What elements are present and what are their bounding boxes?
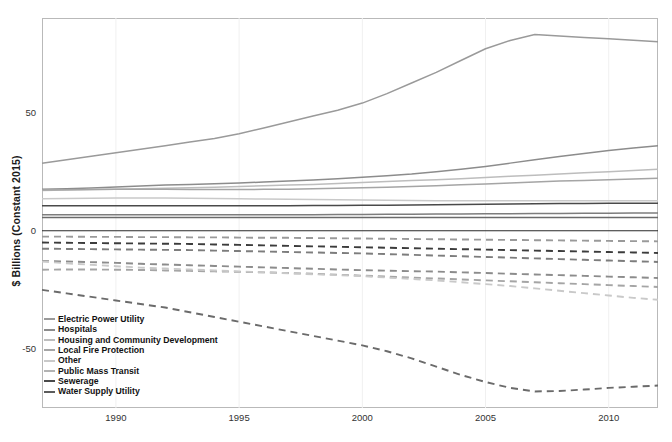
- legend-item[interactable]: Hospitals: [44, 324, 218, 334]
- legend-item-label: Water Supply Utility: [58, 386, 140, 396]
- legend-item-label: Local Fire Protection: [58, 345, 144, 355]
- y-axis-tick: -50: [2, 343, 36, 354]
- legend-swatch-icon: [44, 391, 55, 393]
- legend-item-label: Other: [58, 355, 81, 365]
- y-axis-tick: 0: [2, 225, 36, 236]
- chart-legend: Electric Power UtilityHospitalsHousing a…: [44, 314, 218, 397]
- legend-swatch-icon: [44, 339, 55, 341]
- legend-item-label: Electric Power Utility: [58, 314, 144, 324]
- legend-swatch-icon: [44, 329, 55, 331]
- legend-item[interactable]: Local Fire Protection: [44, 345, 218, 355]
- legend-item-label: Housing and Community Development: [58, 335, 218, 345]
- y-axis-label-text: $ Billions (Constant 2015): [10, 156, 22, 287]
- y-axis-label: $ Billions (Constant 2015): [6, 0, 26, 442]
- legend-swatch-icon: [44, 349, 55, 351]
- legend-item[interactable]: Sewerage: [44, 376, 218, 386]
- x-axis-tick: 2005: [456, 412, 516, 423]
- legend-item[interactable]: Housing and Community Development: [44, 335, 218, 345]
- legend-item-label: Hospitals: [58, 324, 97, 334]
- legend-item-label: Public Mass Transit: [58, 366, 139, 376]
- legend-swatch-icon: [44, 318, 55, 320]
- legend-swatch-icon: [44, 380, 55, 382]
- x-axis-tick: 1995: [209, 412, 269, 423]
- legend-swatch-icon: [44, 370, 55, 372]
- legend-item[interactable]: Public Mass Transit: [44, 366, 218, 376]
- x-axis-tick: 2010: [579, 412, 639, 423]
- x-axis-tick: 1990: [86, 412, 146, 423]
- legend-swatch-icon: [44, 360, 55, 362]
- legend-item[interactable]: Other: [44, 355, 218, 365]
- x-axis-tick: 2000: [332, 412, 392, 423]
- legend-item[interactable]: Electric Power Utility: [44, 314, 218, 324]
- legend-item[interactable]: Water Supply Utility: [44, 386, 218, 396]
- y-axis-tick: 50: [2, 107, 36, 118]
- legend-item-label: Sewerage: [58, 376, 99, 386]
- chart-container: $ Billions (Constant 2015) 500-50 199019…: [0, 0, 672, 442]
